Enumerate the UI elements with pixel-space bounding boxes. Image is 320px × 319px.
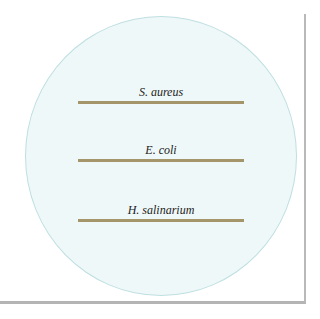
streak-e-coli <box>78 159 244 162</box>
streak-label-h-salinarium: H. salinarium <box>78 203 244 218</box>
streak-s-aureus <box>78 101 244 104</box>
streak-label-s-aureus: S. aureus <box>78 85 244 100</box>
streak-label-e-coli: E. coli <box>78 143 244 158</box>
streak-h-salinarium <box>78 219 244 222</box>
